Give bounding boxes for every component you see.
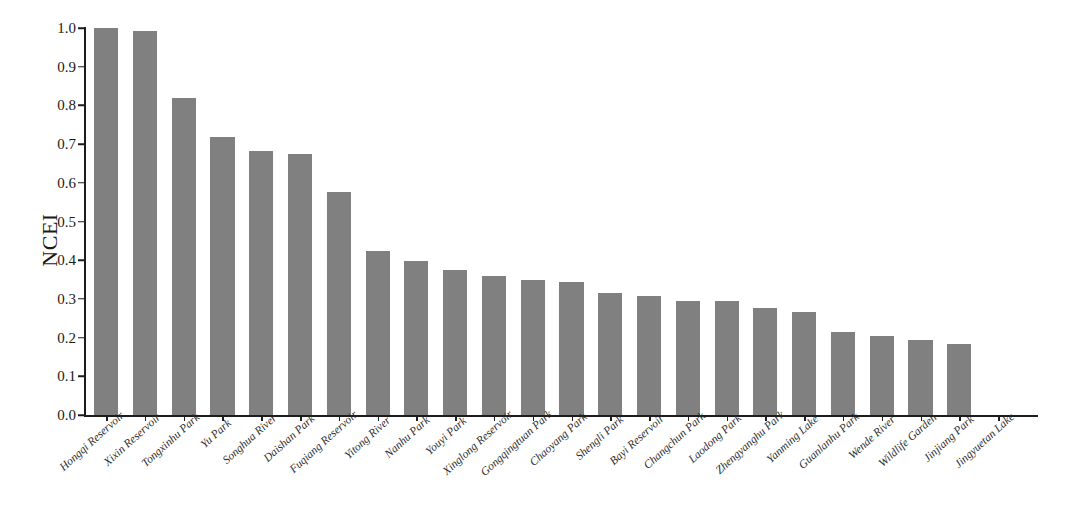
bar	[94, 28, 118, 415]
bar	[831, 332, 855, 415]
bar	[908, 340, 932, 415]
y-axis-tick-mark	[78, 414, 85, 416]
bar	[598, 293, 622, 415]
bar	[404, 261, 428, 415]
bar	[327, 192, 351, 415]
bar	[366, 251, 390, 415]
y-axis-tick-mark	[78, 298, 85, 300]
x-axis-line	[84, 415, 1038, 417]
y-axis-tick-label: 1.0	[24, 21, 76, 36]
bar	[676, 301, 700, 415]
bar	[288, 154, 312, 415]
y-axis-tick-mark	[78, 376, 85, 378]
bar	[521, 280, 545, 415]
y-axis-tick-label: 0.8	[24, 98, 76, 113]
y-axis-tick-label: 0.6	[24, 175, 76, 190]
y-axis-tick-mark	[78, 259, 85, 261]
y-axis-tick-label: 0.2	[24, 330, 76, 345]
bar	[753, 308, 777, 415]
y-axis-title: NCEI	[30, 180, 70, 300]
bar-series	[86, 28, 1038, 415]
bar	[249, 151, 273, 415]
y-axis-tick-label: 0.9	[24, 59, 76, 74]
y-axis-tick-label: 0.7	[24, 137, 76, 152]
bar	[482, 276, 506, 415]
bar	[870, 336, 894, 415]
y-axis-tick-label: 0.4	[24, 253, 76, 268]
bar	[172, 98, 196, 415]
x-axis-tick-label: Fuqiang Reservoir	[287, 408, 359, 475]
x-axis-tick-label: Gongqingtuan Park	[478, 408, 554, 478]
x-axis-labels: Hongqi ReservoirXixin ReservoirTongxinhu…	[86, 418, 1089, 508]
plot-area: 1.00.90.80.70.60.50.40.30.20.10.0	[86, 28, 1038, 415]
y-axis-tick-label: 0.3	[24, 291, 76, 306]
bar	[210, 137, 234, 415]
bar	[133, 31, 157, 415]
bar	[792, 312, 816, 415]
y-axis-tick-label: 0.0	[24, 408, 76, 423]
bar	[559, 282, 583, 416]
bar	[443, 270, 467, 415]
bar	[947, 344, 971, 415]
y-axis-tick-mark	[78, 27, 85, 29]
bar	[715, 301, 739, 415]
x-axis-tick-label: Yu Park	[198, 417, 233, 450]
y-axis-tick-mark	[78, 143, 85, 145]
y-axis-tick-mark	[78, 221, 85, 223]
ncei-bar-chart-figure: NCEI 1.00.90.80.70.60.50.40.30.20.10.0 H…	[0, 0, 1089, 508]
x-axis-tick-label: Zhengyanghu Park	[713, 408, 786, 476]
x-axis-tick-label: Xinglong Reservoir	[440, 408, 515, 477]
y-axis-tick-mark	[78, 182, 85, 184]
bar	[637, 296, 661, 415]
y-axis-tick-label: 0.1	[24, 369, 76, 384]
y-axis-tick-mark	[78, 337, 85, 339]
y-axis-tick-label: 0.5	[24, 214, 76, 229]
y-axis-tick-mark	[78, 66, 85, 68]
y-axis-tick-mark	[78, 105, 85, 107]
